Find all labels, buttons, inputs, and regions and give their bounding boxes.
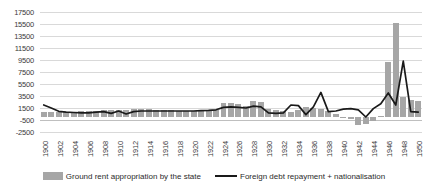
- legend-label-foreign-debt: Foreign debt repayment + nationalisation: [240, 172, 385, 181]
- y-axis: 1750015500135001150095007500550035001500…: [0, 12, 37, 132]
- y-axis-tick-label: 3500: [18, 92, 34, 101]
- chart-legend: Ground rent appropriation by the state F…: [0, 168, 428, 184]
- legend-swatch-bar-icon: [43, 172, 63, 180]
- y-axis-tick-label: 11500: [15, 44, 34, 53]
- legend-entry-foreign-debt: Foreign debt repayment + nationalisation: [215, 172, 385, 181]
- y-axis-tick-label: 15500: [14, 20, 34, 29]
- x-axis: 1900190219041906190819101912191419161918…: [40, 133, 422, 163]
- line-path: [44, 61, 419, 117]
- legend-label-ground-rent: Ground rent appropriation by the state: [66, 172, 201, 181]
- y-axis-tick-label: 9500: [18, 56, 34, 65]
- y-axis-tick-label: 7500: [18, 68, 34, 77]
- chart-figure: 1750015500135001150095007500550035001500…: [0, 0, 428, 192]
- y-axis-tick-label: -500: [20, 116, 34, 125]
- y-axis-tick-label: 5500: [18, 80, 34, 89]
- line-series-foreign-debt: [40, 12, 422, 132]
- legend-entry-ground-rent: Ground rent appropriation by the state: [43, 172, 201, 181]
- y-axis-tick-label: 1500: [18, 104, 34, 113]
- legend-swatch-line-icon: [215, 175, 237, 177]
- y-axis-tick-label: -2500: [16, 128, 34, 137]
- plot-area: [40, 12, 422, 132]
- y-axis-tick-label: 13500: [14, 32, 34, 41]
- y-axis-tick-label: 17500: [14, 8, 34, 17]
